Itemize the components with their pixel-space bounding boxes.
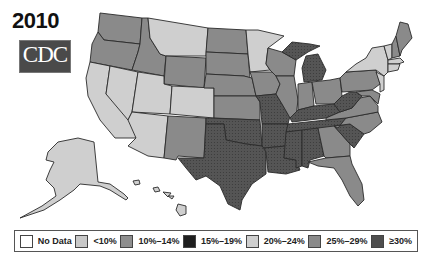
state-pa [340,70,380,92]
legend-swatch [75,235,88,248]
legend-item-gte30: ≥30% [371,235,412,248]
legend-label: 15%–19% [201,236,242,246]
state-hi-1 [133,180,140,185]
legend-label: <10% [93,236,116,246]
state-ks [214,96,260,120]
legend-label: 20%–24% [264,236,305,246]
legend-swatch [20,235,33,248]
legend-item-10-14: 10%–14% [120,235,179,248]
state-ct-ri [388,64,400,72]
legend-label: No Data [38,236,72,246]
state-fl [308,156,364,206]
state-nm [164,116,206,160]
state-in [298,82,314,110]
state-ar [262,124,288,148]
legend: No Data <10% 10%–14% 15%–19% 20%–24% 25%… [14,230,418,252]
legend-item-25-29: 25%–29% [308,235,367,248]
state-hi-2 [153,187,160,192]
legend-item-15-19: 15%–19% [183,235,242,248]
state-wy [164,56,206,88]
state-hi-4 [168,196,174,199]
legend-label: ≥30% [389,236,412,246]
legend-label: 10%–14% [138,236,179,246]
legend-item-lt10: <10% [75,235,116,248]
legend-label: 25%–29% [326,236,367,246]
state-wa [98,13,142,44]
legend-swatch [120,235,133,248]
state-ak [20,138,128,218]
state-mi-lower [302,54,326,82]
us-map [0,0,428,230]
state-co [170,86,214,118]
legend-swatch [246,235,259,248]
state-nd [206,28,248,54]
legend-item-20-24: 20%–24% [246,235,305,248]
legend-swatch [371,235,384,248]
legend-swatch [308,235,321,248]
state-hi-5 [176,204,186,216]
legend-item-no-data: No Data [20,235,72,248]
legend-swatch [183,235,196,248]
